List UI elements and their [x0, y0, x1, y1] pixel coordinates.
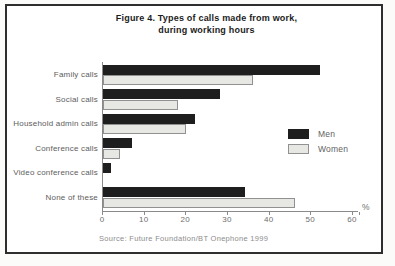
bar-women	[103, 75, 253, 85]
source-note: Source: Future Foundation/BT Onephone 19…	[99, 234, 268, 243]
category-label: Conference calls	[8, 143, 98, 155]
bar-men	[103, 187, 245, 197]
bar-women	[103, 124, 186, 134]
axis-tick-label: 50	[306, 215, 316, 224]
bar-women	[103, 149, 120, 159]
bar-group: Video conference calls	[0, 162, 395, 187]
legend-label-men: Men	[318, 129, 335, 139]
axis-tick-label: 20	[181, 215, 191, 224]
category-label: Household admin calls	[8, 118, 98, 130]
axis-tick-label: 0	[100, 215, 105, 224]
bar-men	[103, 89, 220, 99]
bar-men	[103, 163, 111, 173]
bar-men	[103, 138, 132, 148]
y-axis-line	[102, 62, 103, 212]
x-axis-unit: %	[362, 202, 370, 212]
axis-tick	[359, 212, 360, 215]
bar-men	[103, 114, 195, 124]
category-label: None of these	[8, 192, 98, 204]
axis-tick-label: 60	[347, 215, 357, 224]
bar-group: Family calls	[0, 64, 395, 89]
x-axis	[102, 211, 358, 212]
legend-label-women: Women	[318, 144, 348, 154]
bar-group: None of these	[0, 187, 395, 212]
legend-item-women: Women	[288, 144, 348, 154]
axis-tick-label: 10	[139, 215, 149, 224]
legend-swatch-women	[288, 144, 309, 154]
bar-women	[103, 100, 178, 110]
legend-item-men: Men	[288, 129, 348, 139]
axis-tick-label: 40	[264, 215, 274, 224]
bar-women	[103, 198, 295, 208]
bar-men	[103, 65, 320, 75]
category-label: Family calls	[8, 69, 98, 81]
legend-swatch-men	[288, 129, 309, 139]
legend: Men Women	[288, 129, 348, 159]
bar-group: Social calls	[0, 89, 395, 114]
category-label: Social calls	[8, 94, 98, 106]
category-label: Video conference calls	[8, 167, 98, 179]
axis-tick-label: 30	[222, 215, 232, 224]
